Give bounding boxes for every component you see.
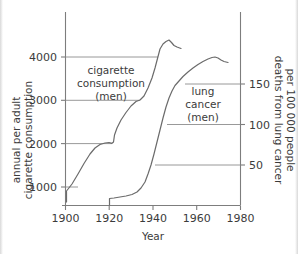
annotation-lung-line3: (men) (187, 111, 219, 123)
chart-page: 4000 3000 2000 1000 150 100 50 1900 1920… (0, 0, 298, 254)
left-axis-title-line1: annual per adult (10, 97, 22, 184)
xtick-label-1960: 1960 (183, 212, 211, 225)
y2tick-label-100: 100 (249, 119, 270, 132)
xtick-label-1980: 1980 (227, 212, 255, 225)
x-axis-title: Year (141, 230, 165, 242)
xtick-label-1940: 1940 (139, 212, 167, 225)
dual-axis-line-chart: 4000 3000 2000 1000 150 100 50 1900 1920… (0, 0, 298, 254)
annotation-lung-line2: cancer (185, 98, 221, 110)
left-axis-title-line2: cigarette consumption (22, 81, 34, 199)
ytick-label-4000: 4000 (29, 51, 57, 64)
xtick-label-1900: 1900 (52, 212, 80, 225)
annotation-cigarette-line2: consumption (77, 77, 145, 89)
xtick-label-1920: 1920 (95, 212, 123, 225)
annotation-cigarette-line1: cigarette (87, 64, 134, 76)
right-axis-title-line1: deaths from lung cancer (273, 56, 285, 185)
annotation-cigarette-line3: (men) (95, 90, 127, 102)
y2tick-label-150: 150 (249, 78, 270, 91)
y2tick-label-50: 50 (249, 159, 263, 172)
right-axis-title-line2: per 100 000 people (285, 68, 297, 171)
annotation-lung-line1: lung (192, 85, 215, 97)
